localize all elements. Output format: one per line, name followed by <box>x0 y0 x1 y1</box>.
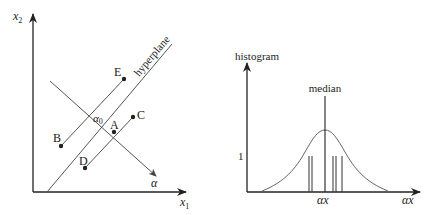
x-axis-alpha-x-label: αx <box>402 193 414 207</box>
figure: x2 x1 hyperplane α α0 E C A B D histogra… <box>0 0 432 215</box>
left-panel: x2 x1 hyperplane α α0 E C A B D <box>12 9 189 211</box>
median-label: median <box>309 82 342 94</box>
hyperplane-label: hyperplane <box>131 33 172 78</box>
alpha-direction-line <box>50 81 156 176</box>
alpha-label: α <box>151 176 158 190</box>
projection-line-dc <box>85 117 133 168</box>
point-e-label: E <box>114 65 121 79</box>
right-panel: histogram αx 1 αx median <box>235 50 420 207</box>
histogram-label: histogram <box>235 50 279 62</box>
point-e <box>122 77 126 81</box>
point-a-label: A <box>110 118 119 132</box>
y-axis-label: x2 <box>12 9 22 25</box>
point-c-label: C <box>137 108 145 122</box>
point-b-label: B <box>53 131 61 145</box>
alpha0-label: α0 <box>93 112 103 126</box>
point-d-label: D <box>79 154 88 168</box>
y-tick-one-label: 1 <box>238 150 244 162</box>
x-axis-label: x1 <box>179 195 189 211</box>
point-c <box>131 115 135 119</box>
x-tick-alpha-x-label: αx <box>317 193 329 207</box>
